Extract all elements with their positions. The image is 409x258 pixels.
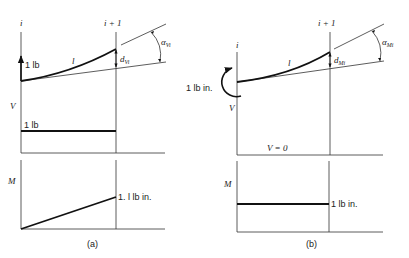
beam-length-label-b: l — [288, 58, 291, 68]
panel-a: i i + 1 l 1 lb dVi αVi V 1 lb M 1. l lb … — [7, 18, 171, 249]
shear-axis-label-b: V — [229, 103, 236, 113]
deflection-label-b: dMi — [334, 55, 345, 66]
station-i-label-a: i — [20, 18, 23, 28]
tangent-line-a — [21, 62, 166, 81]
load-label-a: 1 lb — [25, 60, 40, 70]
slope-line-a — [121, 24, 166, 45]
deflected-beam-b — [237, 52, 330, 82]
moment-axis-label-a: M — [7, 176, 16, 186]
station-i1-label-b: i + 1 — [318, 18, 336, 28]
shear-value-label-a: 1 lb — [24, 120, 39, 130]
load-label-b: 1 lb in. — [186, 83, 213, 93]
moment-value-label-a: 1. l lb in. — [118, 192, 152, 202]
caption-b: (b) — [306, 239, 317, 249]
moment-line-a — [21, 197, 116, 229]
beam-length-label-a: l — [72, 56, 75, 66]
angle-label-a: αVi — [161, 37, 171, 48]
moment-axis-label-b: M — [223, 179, 232, 189]
deflection-label-a: dVi — [120, 54, 130, 65]
caption-a: (a) — [87, 239, 98, 249]
moment-value-label-b: 1 lb in. — [331, 199, 358, 209]
angle-arc-a — [151, 32, 161, 62]
shear-axis-label-a: V — [10, 101, 17, 111]
beam-diagram: i i + 1 l 1 lb dVi αVi V 1 lb M 1. l lb … — [0, 0, 409, 258]
station-i-label-b: i — [236, 40, 239, 50]
angle-arc-b — [372, 31, 381, 61]
angle-label-b: αMi — [382, 37, 394, 48]
panel-b: i i + 1 l 1 lb in. dMi αMi V V = 0 M 1 l… — [186, 18, 394, 249]
shear-value-label-b: V = 0 — [267, 143, 288, 153]
station-i1-label-a: i + 1 — [104, 18, 122, 28]
